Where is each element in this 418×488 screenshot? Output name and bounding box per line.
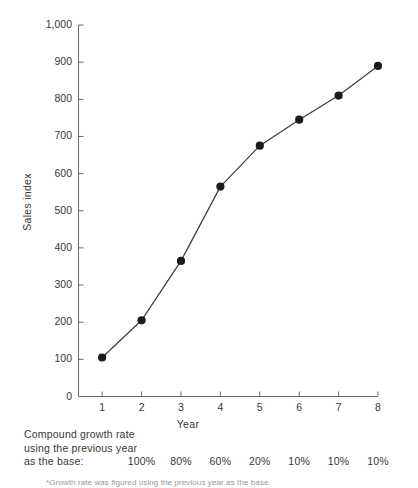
growth-rate-value: 80% bbox=[164, 455, 198, 467]
growth-note-line-3: as the base: bbox=[24, 455, 137, 469]
data-point-marker bbox=[374, 62, 382, 70]
data-point-marker bbox=[98, 353, 106, 361]
x-tick-label: 7 bbox=[327, 401, 351, 413]
growth-note-line-1: Compound growth rate bbox=[24, 428, 137, 442]
x-tick-label: 5 bbox=[248, 401, 272, 413]
x-tick-label: 1 bbox=[90, 401, 114, 413]
data-point-marker bbox=[256, 142, 264, 150]
growth-note-line-2: using the previous year bbox=[24, 442, 137, 456]
y-tick-label: 1,000 bbox=[18, 18, 72, 30]
compound-growth-note: Compound growth rate using the previous … bbox=[24, 428, 137, 469]
data-point-marker bbox=[177, 257, 185, 265]
chart-footnote: *Growth rate was figured using the previ… bbox=[46, 478, 271, 488]
data-point-marker bbox=[335, 92, 343, 100]
x-tick-label: 2 bbox=[130, 401, 154, 413]
data-point-marker bbox=[216, 183, 224, 191]
x-tick-label: 3 bbox=[169, 401, 193, 413]
x-tick-label: 6 bbox=[287, 401, 311, 413]
data-point-marker bbox=[295, 116, 303, 124]
x-tick-label: 8 bbox=[366, 401, 390, 413]
y-tick-label: 0 bbox=[18, 390, 72, 402]
y-tick-label: 100 bbox=[18, 352, 72, 364]
x-axis-title-text: Year bbox=[177, 418, 199, 430]
y-tick-label: 500 bbox=[18, 204, 72, 216]
growth-rate-value: 10% bbox=[282, 455, 316, 467]
axis-lines bbox=[79, 25, 379, 397]
x-tick-label: 4 bbox=[208, 401, 232, 413]
series-markers bbox=[98, 62, 382, 362]
y-tick-label: 700 bbox=[18, 129, 72, 141]
y-tick-label: 600 bbox=[18, 167, 72, 179]
growth-rate-value: 100% bbox=[125, 455, 159, 467]
series-line bbox=[102, 66, 378, 358]
y-tick-label: 900 bbox=[18, 55, 72, 67]
y-tick-label: 800 bbox=[18, 92, 72, 104]
sales-index-chart: Sales index Year 01002003004005006007008… bbox=[0, 0, 418, 488]
data-point-marker bbox=[138, 316, 146, 324]
y-tick-label: 400 bbox=[18, 241, 72, 253]
y-axis-ticks bbox=[79, 25, 84, 397]
y-tick-label: 200 bbox=[18, 315, 72, 327]
growth-rate-value: 20% bbox=[243, 455, 277, 467]
growth-rate-value: 60% bbox=[203, 455, 237, 467]
x-axis-ticks bbox=[102, 392, 378, 397]
growth-rate-value: 10% bbox=[361, 455, 395, 467]
y-tick-label: 300 bbox=[18, 278, 72, 290]
growth-rate-value: 10% bbox=[322, 455, 356, 467]
